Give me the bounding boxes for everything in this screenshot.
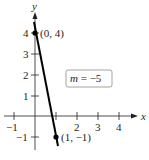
data-line [34, 22, 58, 146]
x-axis-label: x [140, 110, 146, 122]
y-tick-label: 4 [23, 27, 29, 39]
y-axis-arrow-icon [33, 12, 38, 19]
y-tick-label: 1 [23, 90, 29, 102]
y-axis-label: y [31, 0, 37, 12]
point-0-4 [32, 30, 37, 35]
x-tick-label: 3 [95, 121, 101, 133]
x-axis-arrow-icon [131, 114, 138, 119]
x-tick-label: 4 [116, 121, 122, 133]
slope-graph: −1 2 3 4 4 3 2 1 −1 y x (0, 4) (1, −1) m… [0, 0, 149, 160]
point-label-a: (0, 4) [40, 27, 64, 40]
slope-label: m = −5 [70, 72, 102, 84]
y-tick-label: 3 [23, 48, 29, 60]
point-label-b: (1, −1) [61, 131, 91, 144]
y-tick-label: 2 [23, 69, 29, 81]
point-1-neg1 [53, 134, 58, 139]
slope-value: = −5 [78, 72, 102, 84]
y-tick-label: −1 [16, 131, 28, 143]
